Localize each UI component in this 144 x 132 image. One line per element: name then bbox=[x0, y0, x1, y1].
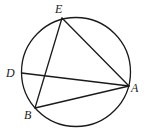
point-label-d: D bbox=[5, 66, 15, 80]
point-label-a: A bbox=[130, 81, 139, 95]
segment-ba bbox=[35, 86, 129, 108]
point-label-e: E bbox=[54, 2, 63, 16]
point-labels: EDAB bbox=[5, 2, 139, 122]
segment-da bbox=[22, 73, 130, 86]
segment-ea bbox=[62, 18, 129, 86]
geometry-figure: EDAB bbox=[0, 0, 144, 132]
circumscribed-circle bbox=[22, 18, 131, 127]
point-label-b: B bbox=[24, 108, 32, 122]
